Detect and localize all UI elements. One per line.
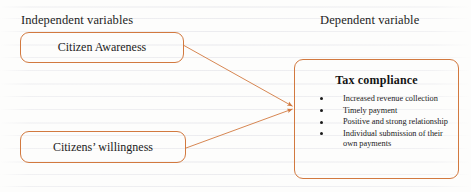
list-item-text: Positive and strong relationship: [343, 117, 448, 126]
list-item: Timely payment: [320, 106, 450, 116]
independent-box-citizens-willingness[interactable]: Citizens’ willingness: [20, 131, 186, 163]
list-item-text: Timely payment: [343, 106, 397, 115]
bullet-icon: [320, 121, 323, 124]
page-bleed-artifact: [0, 6, 471, 8]
dependent-box-tax-compliance[interactable]: Tax compliance Increased revenue collect…: [294, 59, 459, 179]
dependent-box-title: Tax compliance: [295, 73, 458, 88]
dependent-variable-header: Dependent variable: [320, 13, 419, 28]
arrow-awareness-to-compliance: [184, 46, 293, 107]
list-item: Individual submission of their own payme…: [320, 129, 450, 150]
bullet-icon: [320, 109, 323, 112]
independent-box-citizen-awareness[interactable]: Citizen Awareness: [20, 32, 184, 63]
list-item: Positive and strong relationship: [320, 117, 450, 127]
bullet-icon: [320, 132, 323, 135]
bullet-icon: [320, 97, 323, 100]
list-item: Increased revenue collection: [320, 94, 450, 104]
list-item-text: Individual submission of their own payme…: [343, 129, 443, 148]
diagram-canvas: Independent variables Dependent variable…: [0, 0, 471, 192]
independent-variables-header: Independent variables: [21, 13, 133, 28]
independent-box-label: Citizen Awareness: [58, 40, 147, 55]
arrow-willingness-to-compliance: [186, 109, 293, 148]
independent-box-label: Citizens’ willingness: [53, 140, 153, 155]
tax-compliance-outcome-list: Increased revenue collection Timely paym…: [320, 94, 450, 151]
list-item-text: Increased revenue collection: [343, 94, 438, 103]
page-bleed-artifact: [0, 186, 471, 187]
